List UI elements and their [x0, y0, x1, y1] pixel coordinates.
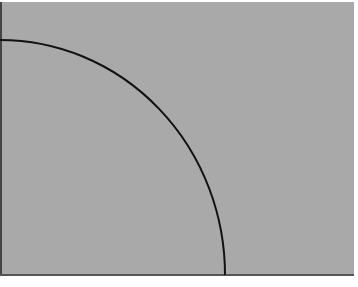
- arc-figure: [0, 2, 354, 277]
- gray-panel: [0, 2, 354, 276]
- panel-background: [0, 2, 354, 276]
